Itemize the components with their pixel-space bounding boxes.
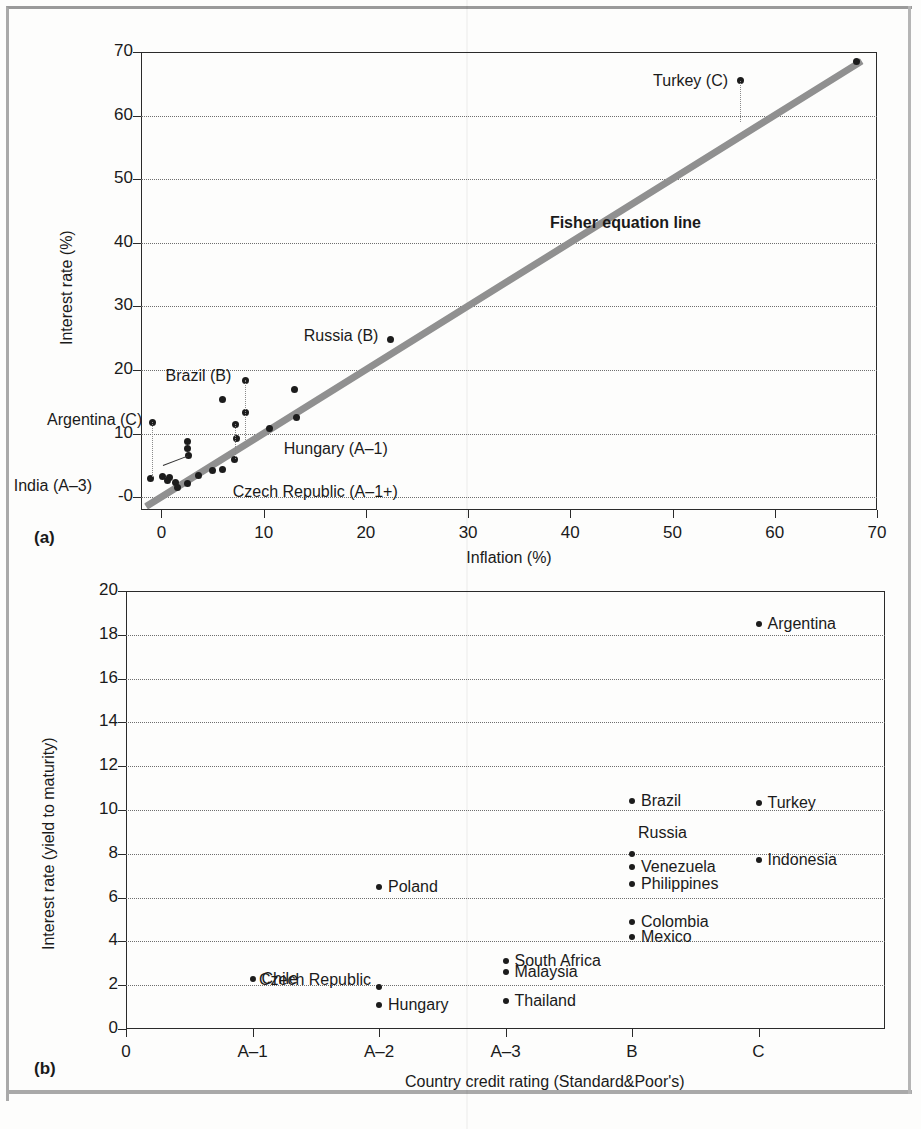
x-axis-tick-label: B: [592, 1042, 672, 1062]
y-axis-tick-label: 18: [70, 624, 118, 644]
x-axis-tick: [264, 510, 265, 518]
x-axis-tick-label: 40: [530, 523, 610, 543]
x-axis-tick: [379, 1029, 380, 1037]
data-point: [184, 480, 191, 487]
x-axis-title-b: Country credit rating (Standard&Poor's): [405, 1073, 605, 1091]
gridline-horizontal: [126, 941, 885, 942]
data-point: [387, 336, 394, 343]
point-label: Turkey (C): [653, 72, 728, 90]
data-point: [756, 621, 762, 627]
y-axis-tick: [118, 898, 126, 899]
data-point: [629, 864, 635, 870]
data-point: [629, 919, 635, 925]
gridline-horizontal: [141, 179, 877, 180]
y-axis-tick: [118, 766, 126, 767]
x-axis-tick-label: 0: [86, 1042, 166, 1062]
y-axis-tick: [118, 854, 126, 855]
point-label: Argentina: [768, 615, 837, 633]
x-axis-tick-label: A–3: [466, 1042, 546, 1062]
y-axis-tick-label: 40: [85, 232, 133, 252]
gridline-horizontal: [126, 985, 885, 986]
point-label: Malaysia: [515, 963, 578, 981]
x-axis-tick-label: A–1: [213, 1042, 293, 1062]
y-axis-tick: [133, 370, 141, 371]
fisher-equation-label: Fisher equation line: [550, 214, 701, 232]
x-axis-tick-label: A–2: [339, 1042, 419, 1062]
point-label: Thailand: [515, 992, 576, 1010]
point-label: Czech Republic (A–1+): [233, 483, 398, 501]
x-axis-tick-label: 10: [224, 523, 304, 543]
data-point: [293, 414, 300, 421]
y-axis-tick-label: 16: [70, 668, 118, 688]
data-point: [503, 969, 509, 975]
y-axis-tick-label: 70: [85, 41, 133, 61]
x-axis-tick: [570, 510, 571, 518]
data-point: [184, 438, 191, 445]
y-axis-tick-label: 60: [85, 105, 133, 125]
x-axis-tick-label: C: [719, 1042, 799, 1062]
gridline-horizontal: [141, 434, 877, 435]
y-axis-tick: [118, 635, 126, 636]
dotted-leader-turkey: [740, 81, 741, 122]
y-axis-tick: [133, 306, 141, 307]
gridline-horizontal: [126, 722, 885, 723]
x-axis-tick: [673, 510, 674, 518]
dotted-leader-cluster: [235, 424, 236, 459]
point-label: Brazil (B): [165, 367, 231, 385]
point-label: Venezuela: [641, 858, 716, 876]
data-point: [629, 851, 635, 857]
gridline-horizontal: [126, 898, 885, 899]
panel-a: Interest rate (%) Inflation (%) (a) -010…: [0, 0, 921, 570]
y-axis-tick-label: 0: [70, 1018, 118, 1038]
x-axis-tick-label: 0: [121, 523, 201, 543]
data-point: [184, 445, 191, 452]
y-axis-tick-label: 8: [70, 843, 118, 863]
dotted-leader-brazil: [245, 380, 246, 440]
point-label: India (A–3): [14, 477, 92, 495]
panel-a-label: (a): [34, 528, 55, 548]
gridline-horizontal: [141, 306, 877, 307]
data-point: [503, 958, 509, 964]
point-label: Hungary: [388, 996, 448, 1014]
x-axis-tick: [506, 1029, 507, 1037]
y-axis-tick: [133, 497, 141, 498]
y-axis-tick: [118, 810, 126, 811]
x-axis-title-a: Inflation (%): [409, 549, 609, 567]
x-axis-tick-label: 70: [837, 523, 917, 543]
x-axis-tick: [632, 1029, 633, 1037]
y-axis-tick-label: 20: [85, 359, 133, 379]
point-label: Poland: [388, 878, 438, 896]
x-axis-tick: [253, 1029, 254, 1037]
data-point: [174, 484, 181, 491]
x-axis-tick-label: 50: [633, 523, 713, 543]
y-axis-tick: [118, 679, 126, 680]
data-point: [503, 998, 509, 1004]
y-axis-tick-label: 4: [70, 930, 118, 950]
y-axis-tick-label: 6: [70, 887, 118, 907]
point-label: Russia (B): [304, 327, 379, 345]
data-point: [629, 934, 635, 940]
point-label: Turkey: [768, 794, 816, 812]
point-label: Argentina (C): [47, 411, 142, 429]
y-axis-tick-label: -0: [85, 486, 133, 506]
y-axis-tick: [118, 941, 126, 942]
y-axis-tick-label: 2: [70, 974, 118, 994]
data-point: [231, 456, 238, 463]
x-axis-tick: [366, 510, 367, 518]
data-point: [250, 976, 256, 982]
y-axis-tick-label: 10: [70, 799, 118, 819]
figure-root: Interest rate (%) Inflation (%) (a) -010…: [0, 0, 921, 1129]
y-axis-tick: [133, 116, 141, 117]
y-axis-tick: [118, 722, 126, 723]
y-axis-tick-label: 12: [70, 755, 118, 775]
x-axis-tick: [161, 510, 162, 518]
data-point: [756, 800, 762, 806]
point-label: Brazil: [641, 792, 681, 810]
y-axis-tick: [118, 591, 126, 592]
y-axis-tick: [133, 243, 141, 244]
data-point: [376, 1002, 382, 1008]
y-axis-tick: [118, 1029, 126, 1030]
data-point: [756, 857, 762, 863]
point-label: Indonesia: [768, 851, 837, 869]
gridline-horizontal: [126, 679, 885, 680]
